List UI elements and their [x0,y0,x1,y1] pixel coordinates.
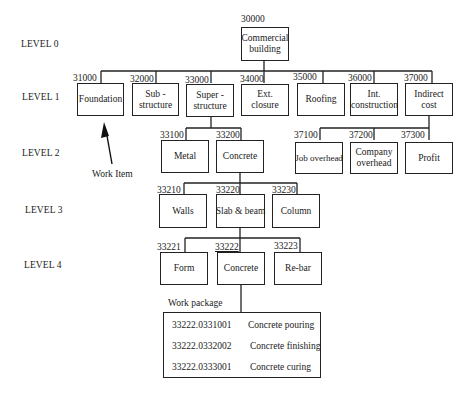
level-1-label: LEVEL 1 [22,92,60,102]
root-code: 30000 [241,14,265,24]
node-code: 35000 [293,72,317,82]
node-label: Company overhead [354,147,394,169]
node-label: Slab & beam [216,206,266,217]
node-concrete-l2: Concrete [216,140,264,173]
activity-id: 33222.0332002 [172,341,242,351]
activity-id: 33222.0333001 [172,362,242,372]
node-code: 37100 [294,130,318,140]
node-code: 36000 [348,73,372,83]
node-code: 31000 [73,73,97,83]
work-package-row: 33222.0332002Concrete finishing [172,341,320,351]
node-label: Sub - structure [138,89,174,111]
level-4-label: LEVEL 4 [24,260,62,270]
node-label: Roofing [305,94,336,105]
activity-name: Concrete finishing [250,341,320,351]
node-label: Ext. closure [243,89,287,111]
node-super-structure: Super - structure [186,84,234,117]
node-label: Concrete [223,151,257,162]
node-label: Job overhead [295,153,343,164]
node-code: 37000 [404,73,428,83]
node-code: 37200 [349,130,373,140]
node-commercial-building: Commercial building [241,27,289,61]
node-walls: Walls [159,194,207,228]
work-item-arrow [101,122,112,164]
work-package-label: Work package [168,298,222,308]
node-sub-structure: Sub - structure [132,83,179,116]
node-ext-closure: Ext. closure [241,84,289,116]
node-indirect-cost: Indirect cost [405,83,453,116]
node-label: Concrete [224,263,258,274]
node-slab-beam: Slab & beam [216,194,265,228]
node-profit: Profit [405,142,453,174]
node-company-overhead: Company overhead [350,142,398,174]
node-label: Column [281,206,312,217]
activity-id: 33222.0331001 [172,320,242,330]
node-label: Profit [418,153,440,164]
work-package-row: 33222.0331001Concrete pouring [172,320,314,330]
node-label: Walls [172,206,193,217]
node-foundation: Foundation [77,83,124,116]
node-code: 33100 [160,130,184,140]
node-code: 33221 [157,242,181,252]
node-code: 37300 [401,130,425,140]
node-label: Foundation [79,94,122,105]
activity-name: Concrete pouring [248,320,314,330]
node-label: Commercial building [242,33,289,55]
node-re-bar: Re-bar [274,252,322,285]
level-3-label: LEVEL 3 [25,205,63,215]
node-column: Column [272,194,320,228]
node-label: Metal [174,151,196,162]
node-code: 33222 [215,242,239,252]
node-code: 33200 [216,130,240,140]
activity-name: Concrete curing [250,362,311,372]
node-label: Form [174,263,195,274]
level-2-label: LEVEL 2 [22,148,60,158]
node-job-overhead: Job overhead [295,142,343,174]
node-int-construction: Int. construction [350,83,398,116]
node-label: Indirect cost [412,89,446,111]
node-form: Form [160,252,208,285]
node-label: Super - structure [191,90,229,112]
node-code: 34000 [240,74,264,84]
node-label: Int. construction [351,89,397,111]
work-item-label: Work Item [92,169,133,179]
node-code: 33223 [274,241,298,251]
node-concrete-l4: Concrete [217,252,265,285]
node-label: Re-bar [285,263,311,274]
level-0-label: LEVEL 0 [21,39,59,49]
node-roofing: Roofing [297,83,345,116]
work-package-row: 33222.0333001Concrete curing [172,362,311,372]
node-metal: Metal [161,140,209,173]
